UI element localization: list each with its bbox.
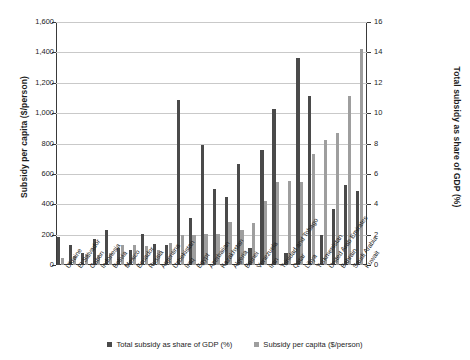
bar-series-container [56,22,367,265]
chart-figure: Subsidy per capita ($/person) Total subs… [0,0,470,360]
legend-swatch-light [254,342,259,347]
bar-group [212,22,224,265]
bar-group [259,22,271,265]
y-axis-left-tick-label: 1,400 [14,48,54,56]
y-axis-left-tick-label: 800 [14,140,54,148]
y-axis-left-tick-label: 400 [14,200,54,208]
bar-group [56,22,68,265]
legend-label: Subsidy per capita ($/person) [263,340,362,349]
plot-area: 02004006008001,0001,2001,4001,600 024681… [56,22,367,265]
bar-group [283,22,295,265]
y-axis-right-tick-label: 2 [374,231,404,239]
y-axis-right-tick-label: 12 [374,79,404,87]
bar-total-subsidy-share-gdp [260,150,263,265]
bar-subsidy-per-capita [360,49,363,265]
bar-group [319,22,331,265]
y-axis-right-tick [367,83,371,84]
bar-group [271,22,283,265]
y-axis-right-tick [367,113,371,114]
bar-group [92,22,104,265]
y-axis-right-tick [367,22,371,23]
bar-group [331,22,343,265]
y-axis-left-tick-label: 0 [14,261,54,269]
bar-group [104,22,116,265]
y-axis-right-tick [367,235,371,236]
bar-group [140,22,152,265]
y-axis-right-tick-label: 8 [374,140,404,148]
bar-total-subsidy-share-gdp [308,96,311,265]
legend-item: Total subsidy as share of GDP (%) [107,340,232,349]
y-axis-right-tick [367,52,371,53]
x-axis-category-labels: UkraineEl SalvadorGabonIndonesiaBoliviaM… [56,266,367,332]
legend-item: Subsidy per capita ($/person) [254,340,362,349]
bar-group [80,22,92,265]
legend-swatch-dark [107,342,112,347]
bar-group [235,22,247,265]
y-axis-left-tick-label: 1,600 [14,18,54,26]
y-axis-left-tick-label: 1,200 [14,79,54,87]
bar-group [164,22,176,265]
y-axis-right-tick-label: 0 [374,261,404,269]
bar-total-subsidy-share-gdp [201,145,204,265]
chart-legend: Total subsidy as share of GDP (%)Subsidy… [0,340,470,349]
bar-group [128,22,140,265]
bar-subsidy-per-capita [276,182,279,265]
y-axis-right-tick-label: 14 [374,48,404,56]
bar-group [200,22,212,265]
bar-total-subsidy-share-gdp [57,237,60,265]
bar-group [176,22,188,265]
bar-group [68,22,80,265]
bar-total-subsidy-share-gdp [296,58,299,265]
y-axis-left-tick-label: 1,000 [14,109,54,117]
legend-label: Total subsidy as share of GDP (%) [116,340,232,349]
bar-group [188,22,200,265]
y-axis-right-tick-label: 4 [374,200,404,208]
y-axis-right-title: Total subsidy as share of GDP (%) [452,52,462,222]
bar-group [247,22,259,265]
y-axis-right-tick-label: 6 [374,170,404,178]
y-axis-right-tick-label: 16 [374,18,404,26]
bar-subsidy-per-capita [312,154,315,265]
bar-total-subsidy-share-gdp [177,100,180,265]
bar-group [152,22,164,265]
y-axis-left-tick-label: 200 [14,231,54,239]
y-axis-left-tick-label: 600 [14,170,54,178]
bar-group [116,22,128,265]
y-axis-right-tick-label: 10 [374,109,404,117]
bar-group [223,22,235,265]
y-axis-right-tick [367,144,371,145]
bar-subsidy-per-capita [324,140,327,265]
y-axis-right-tick [367,204,371,205]
y-axis-right-tick [367,174,371,175]
